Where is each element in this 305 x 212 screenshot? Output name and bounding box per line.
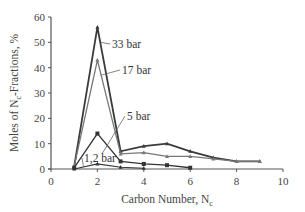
label-leader-line [101,42,110,44]
x-tick-label: 8 [234,175,240,187]
x-tick-label: 0 [48,175,54,187]
data-point-triangle [95,25,99,29]
y-tick-label: 50 [34,36,46,48]
data-point-triangle [95,58,99,62]
y-axis-title: Moles of Nc-Fractions, % [8,34,23,152]
series-line [74,164,144,169]
data-point-square [119,159,123,163]
x-tick-label: 4 [141,175,147,187]
x-tick-label: 10 [278,175,290,187]
series-line [74,60,260,166]
y-tick-label: 30 [34,87,46,99]
series-line [74,27,260,166]
series-label: 5 bar [127,110,150,122]
data-point-square [165,163,169,167]
data-point-square [95,132,99,136]
y-tick-label: 40 [34,62,46,74]
y-tick-label: 0 [40,163,46,175]
line-chart: 0102030405060 0246810 33 bar17 bar5 bar1… [0,0,305,212]
label-leader-line [102,116,125,154]
x-tick-label: 2 [95,175,101,187]
y-tick-label: 60 [34,11,46,23]
series-label: 17 bar [122,64,151,76]
series-group [72,25,262,171]
x-axis: 0246810 [48,169,289,187]
x-axis-title: Carbon Number, Nc [121,193,213,208]
x-tick-label: 6 [187,175,193,187]
y-tick-label: 10 [34,138,46,150]
series-5-bar [72,132,192,170]
y-tick-label: 20 [34,112,46,124]
y-axis: 0102030405060 [34,11,51,175]
label-leader-line [101,70,120,75]
series-label: 1,2 bar [84,152,116,165]
data-point-square [142,162,146,166]
series-33-bar [72,25,262,168]
series-label: 33 bar [112,38,141,50]
data-point-square [188,166,192,170]
